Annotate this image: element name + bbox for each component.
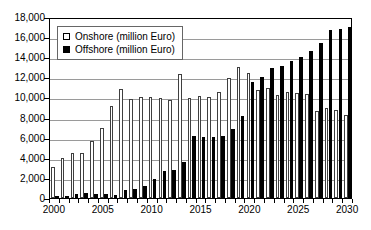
x-tick-mark — [274, 199, 275, 203]
x-tick-mark — [196, 199, 197, 203]
x-tick-mark — [332, 199, 333, 203]
x-tick-mark — [59, 199, 60, 203]
x-tick-label: 2000 — [43, 204, 65, 216]
x-tick-label: 2020 — [238, 204, 260, 216]
x-tick-mark — [108, 199, 109, 203]
bar-onshore-2027 — [315, 111, 319, 198]
bar-offshore-2018 — [231, 129, 235, 198]
y-tick-label: 8,000 — [0, 114, 45, 124]
bar-onshore-2026 — [305, 94, 309, 198]
offshore-swatch-icon — [63, 46, 70, 53]
x-tick-label: 2005 — [92, 204, 114, 216]
bar-offshore-2010 — [153, 179, 157, 198]
x-tick-mark — [244, 199, 245, 203]
x-tick-label: 2030 — [336, 204, 358, 216]
bar-onshore-2021 — [256, 90, 260, 198]
x-tick-mark — [313, 199, 314, 203]
bar-onshore-2030 — [344, 115, 348, 198]
x-tick-mark — [264, 199, 265, 203]
bar-onshore-2005 — [100, 128, 104, 198]
bar-offshore-2011 — [163, 171, 167, 198]
bar-offshore-2002 — [75, 194, 79, 198]
bar-offshore-2024 — [290, 61, 294, 198]
bar-offshore-2003 — [84, 193, 88, 198]
legend-item-offshore: Offshore (million Euro) — [63, 43, 175, 56]
chart-legend: Onshore (million Euro) Offshore (million… — [57, 26, 183, 60]
x-tick-mark — [352, 199, 353, 203]
y-tick-label: 4,000 — [0, 154, 45, 164]
bar-offshore-2019 — [241, 116, 245, 198]
bar-offshore-2015 — [202, 137, 206, 198]
bar-onshore-2001 — [61, 158, 65, 198]
bar-offshore-2001 — [65, 196, 69, 199]
bar-onshore-2022 — [266, 88, 270, 198]
bar-onshore-2009 — [139, 97, 143, 198]
x-tick-mark — [176, 199, 177, 203]
y-tick-label: 10,000 — [0, 93, 45, 103]
bar-onshore-2029 — [334, 110, 338, 198]
bar-offshore-2023 — [280, 66, 284, 198]
bar-onshore-2012 — [168, 100, 172, 198]
legend-label-onshore: Onshore (million Euro) — [75, 31, 175, 42]
y-tick-label: 0 — [0, 194, 45, 204]
bar-offshore-2008 — [133, 189, 137, 198]
bar-offshore-2012 — [172, 170, 176, 198]
bar-offshore-2007 — [124, 190, 128, 198]
bar-offshore-2026 — [309, 51, 313, 198]
x-tick-mark — [69, 199, 70, 203]
bar-onshore-2018 — [227, 78, 231, 198]
x-tick-label: 2015 — [189, 204, 211, 216]
bar-onshore-2023 — [276, 95, 280, 198]
legend-label-offshore: Offshore (million Euro) — [75, 44, 175, 55]
bar-offshore-2020 — [251, 82, 255, 198]
x-tick-mark — [225, 199, 226, 203]
x-tick-mark — [303, 199, 304, 203]
x-tick-mark — [205, 199, 206, 203]
x-tick-mark — [186, 199, 187, 203]
x-tick-label: 2025 — [287, 204, 309, 216]
bar-onshore-2025 — [295, 93, 299, 198]
x-tick-mark — [235, 199, 236, 203]
y-axis: 02,0004,0006,0008,00010,00012,00014,0001… — [0, 0, 45, 230]
x-tick-mark — [254, 199, 255, 203]
x-tick-mark — [284, 199, 285, 203]
bar-onshore-2016 — [207, 97, 211, 198]
x-tick-mark — [98, 199, 99, 203]
bar-onshore-2010 — [149, 97, 153, 198]
bar-onshore-2006 — [110, 106, 114, 199]
bar-offshore-2016 — [212, 137, 216, 198]
bar-offshore-2028 — [329, 30, 333, 198]
bar-offshore-2014 — [192, 136, 196, 198]
bar-offshore-2013 — [182, 162, 186, 198]
x-tick-mark — [137, 199, 138, 203]
y-tick-label: 12,000 — [0, 73, 45, 83]
bar-onshore-2011 — [159, 98, 163, 198]
x-axis: 2000200520102015202020252030 — [0, 204, 371, 220]
bar-onshore-2002 — [71, 153, 75, 198]
investment-bar-chart: 02,0004,0006,0008,00010,00012,00014,0001… — [0, 0, 371, 230]
bar-offshore-2009 — [143, 186, 147, 198]
legend-item-onshore: Onshore (million Euro) — [63, 30, 175, 43]
bar-offshore-2017 — [221, 136, 225, 198]
x-tick-mark — [323, 199, 324, 203]
x-tick-mark — [49, 199, 50, 203]
bar-offshore-2005 — [104, 194, 108, 198]
y-tick-label: 2,000 — [0, 174, 45, 184]
x-tick-mark — [342, 199, 343, 203]
x-tick-mark — [215, 199, 216, 203]
bar-onshore-2020 — [247, 73, 251, 198]
x-tick-mark — [117, 199, 118, 203]
bar-onshore-2004 — [90, 141, 94, 198]
bar-offshore-2029 — [339, 29, 343, 198]
bar-onshore-2000 — [51, 167, 55, 198]
x-tick-mark — [88, 199, 89, 203]
x-tick-mark — [78, 199, 79, 203]
bar-onshore-2028 — [325, 108, 329, 199]
y-tick-label: 18,000 — [0, 13, 45, 23]
y-tick-label: 16,000 — [0, 33, 45, 43]
y-tick-label: 6,000 — [0, 134, 45, 144]
bar-offshore-2021 — [260, 77, 264, 198]
bar-offshore-2027 — [319, 43, 323, 198]
bar-onshore-2007 — [119, 89, 123, 198]
bar-offshore-2025 — [299, 57, 303, 198]
